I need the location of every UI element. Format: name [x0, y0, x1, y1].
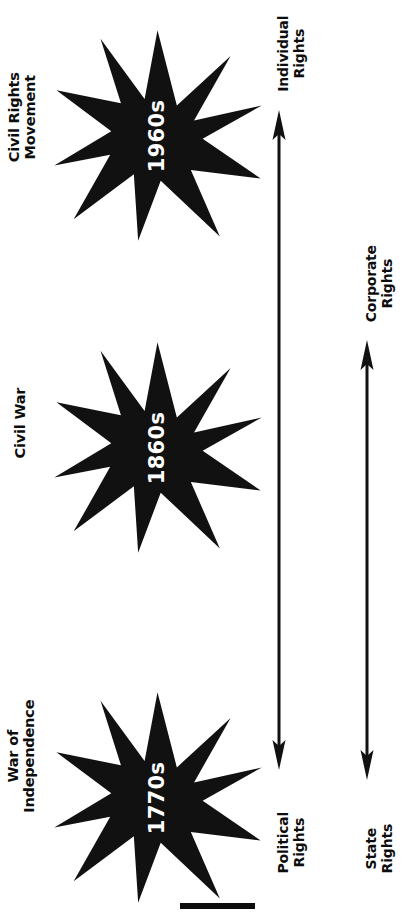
star-polygon — [54, 692, 261, 903]
timeline-diagram: Civil Rights Movement 1960s Civil War 18… — [0, 0, 411, 917]
star-burst-1960s: 1960s — [50, 28, 265, 243]
axis-end-label-individual-rights: Individual Rights — [276, 0, 307, 109]
event-label-civil-rights-movement: Civil Rights Movement — [6, 62, 38, 172]
bottom-rule — [180, 903, 255, 909]
axis-start-label-political-rights: Political Rights — [276, 789, 307, 897]
star-burst-1770s: 1770s — [50, 690, 265, 905]
axis-end-label-corporate-rights: Corporate Rights — [364, 228, 395, 340]
event-label-civil-war: Civil War — [12, 378, 28, 468]
axis-start-label-state-rights: State Rights — [364, 799, 395, 899]
star-polygon — [54, 342, 261, 553]
axis-arrow-political-individual — [270, 110, 288, 770]
event-label-war-of-independence: War of Independence — [5, 691, 37, 821]
axis-arrow-state-corporate — [358, 340, 376, 780]
star-polygon — [54, 30, 261, 241]
star-burst-1860s: 1860s — [50, 340, 265, 555]
